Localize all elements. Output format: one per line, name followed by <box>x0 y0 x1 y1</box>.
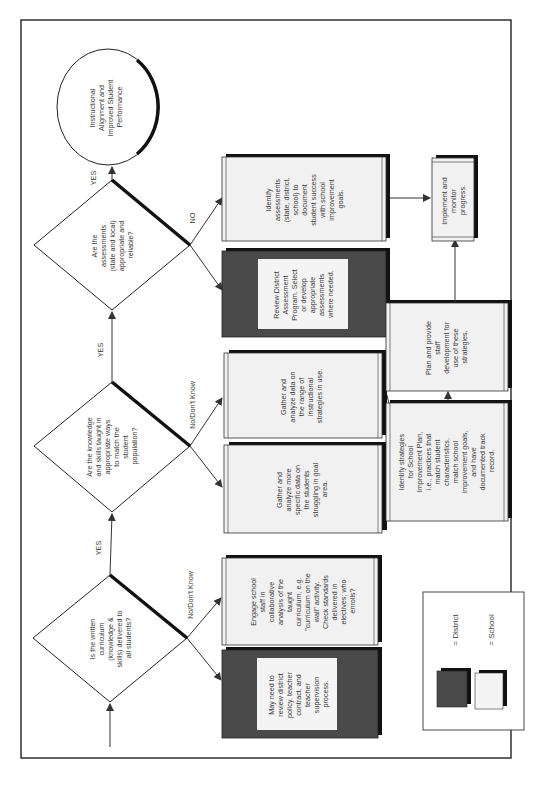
decision-curriculum: Is the written curriculum (knowledge & s… <box>33 575 187 702</box>
yes-label-2: YES <box>96 343 105 358</box>
box-engage-staff: Engage school staff in collaborative ana… <box>222 555 382 645</box>
legend-district-swatch <box>437 668 471 707</box>
legend-district-label: = District <box>451 614 460 646</box>
decision-assessments: Are the assessments (state and local) ap… <box>34 180 190 310</box>
box-identify-assessments: Identify assessments (state, district, s… <box>222 154 390 241</box>
box-may-need: May need to review district policy, teac… <box>222 647 382 738</box>
no-label-2: No/Don't Know <box>188 380 197 429</box>
box-review-district: Review District Assessment Program. Sele… <box>222 248 390 337</box>
legend-school-label: = School <box>487 614 496 646</box>
legend-school-swatch <box>475 670 507 709</box>
box-plan-staff-development: Plan and provide staff development for u… <box>386 300 512 391</box>
box-identify-strategies: Identify strategies for School Improveme… <box>386 400 512 521</box>
svg-text:May need to review dis: May need to review district policy, teac… <box>267 670 330 718</box>
no-label-3: NO <box>188 212 197 223</box>
no-label-1: No/Don't Know <box>186 570 195 619</box>
decision-instruction: Are the knowledge and skills taught in a… <box>34 382 190 512</box>
box-gather-range: Gather and analyze data on the range of … <box>224 350 387 438</box>
branch-arrow <box>187 638 221 680</box>
box-gather-specific: Gather and analyze more specific data on… <box>224 442 387 533</box>
yes-label-1: YES <box>94 541 103 556</box>
branch-arrow <box>190 446 222 487</box>
yes-arrow-1 <box>110 514 112 575</box>
goal-node: Instructional Alignment and Improved Stu… <box>57 49 159 165</box>
legend: = District = School <box>423 592 524 730</box>
branch-arrow <box>190 245 222 290</box>
flowchart-canvas: Instructional Alignment and Improved Stu… <box>0 0 556 791</box>
box-implement-monitor: Implement and monitor progress. <box>432 155 478 241</box>
yes-label-3: YES <box>89 171 98 186</box>
